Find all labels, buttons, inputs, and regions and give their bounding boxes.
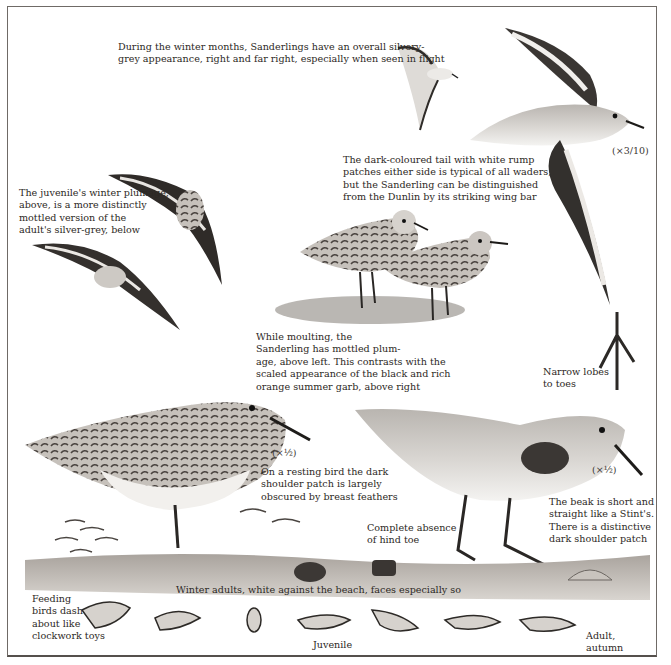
scale-flight-large: (×3/10) — [612, 145, 649, 156]
shell-icon — [294, 562, 326, 582]
caption-toes: Narrow lobes to toes — [543, 366, 609, 391]
scale-standing-right: (×½) — [592, 464, 617, 475]
caption-beak: The beak is short and straight like a St… — [549, 496, 654, 546]
two-standing-sanderlings-icon — [275, 210, 508, 324]
caption-moulting: While moulting, the Sanderling has mottl… — [256, 331, 451, 393]
flying-adult-icon — [32, 243, 180, 330]
caption-hind-toe: Complete absence of hind toe — [367, 522, 456, 547]
pebble-icon — [372, 560, 396, 576]
caption-feeding: Feeding birds dash about like clockwork … — [32, 593, 105, 643]
caption-juvenile-label: Juvenile — [313, 639, 352, 651]
caption-tail-rump: The dark-coloured tail with white rump p… — [343, 154, 551, 204]
caption-winter-flight: During the winter months, Sanderlings ha… — [118, 41, 445, 66]
scale-resting-left: (×½) — [272, 447, 297, 458]
caption-adult-autumn: Adult, autumn — [586, 630, 623, 655]
caption-juvenile-winter: The juvenile's winter plumage, above, is… — [19, 187, 169, 237]
caption-resting: On a resting bird the dark shoulder patc… — [261, 466, 398, 503]
caption-winter-adults: Winter adults, white against the beach, … — [176, 584, 461, 596]
feeding-birds-row-icon — [82, 602, 575, 632]
